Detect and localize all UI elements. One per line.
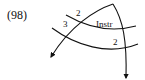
label-instr: Instr: [96, 19, 113, 29]
label-3: 3: [63, 19, 68, 29]
case-grid-diagram: 2 3 Instr 2: [0, 0, 145, 80]
label-2-top: 2: [76, 8, 81, 18]
label-2-bottom: 2: [113, 37, 118, 47]
